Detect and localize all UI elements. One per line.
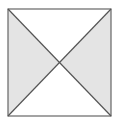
diagram-canvas [0, 0, 121, 124]
